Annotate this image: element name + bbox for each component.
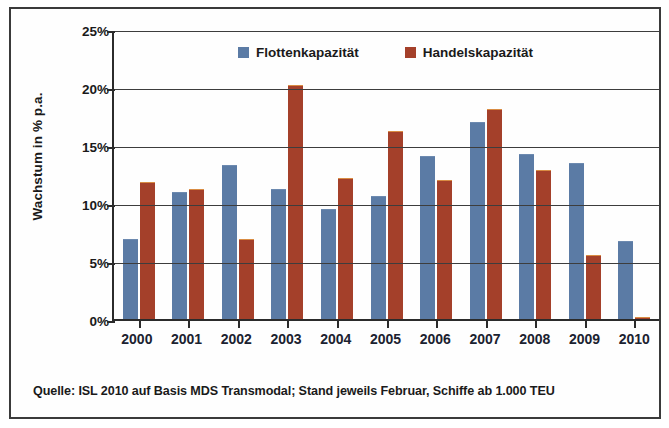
y-axis-tick-label: 10% <box>63 198 109 213</box>
x-axis-tick-mark <box>387 320 389 328</box>
bar-group <box>263 31 313 321</box>
bar-fleet <box>222 165 237 321</box>
x-axis-tick-label: 2002 <box>211 331 261 347</box>
y-axis-tick-label: 25% <box>63 24 109 39</box>
chart-page: Wachstum in % p.a. 25%20%15%10%5%0% 2000… <box>0 0 669 428</box>
chart-legend: FlottenkapazitätHandelskapazität <box>112 45 659 60</box>
chart-area: Wachstum in % p.a. 25%20%15%10%5%0% 2000… <box>11 9 663 369</box>
bar-fleet <box>519 154 534 321</box>
x-axis-tick-label: 2006 <box>410 331 460 347</box>
x-axis-tick-label: 2001 <box>162 331 212 347</box>
bar-fleet <box>470 122 485 321</box>
gridline <box>114 147 659 148</box>
y-axis-tick-mark <box>107 263 115 265</box>
legend-swatch-icon <box>238 47 249 58</box>
x-axis-tick-mark <box>535 320 537 328</box>
legend-item-fleet: Flottenkapazität <box>238 45 359 60</box>
bar-fleet <box>271 189 286 321</box>
legend-item-trade: Handelskapazität <box>405 45 533 60</box>
bar-group <box>213 31 263 321</box>
bar-fleet <box>420 156 435 321</box>
bar-trade <box>536 170 551 321</box>
y-axis-title: Wachstum in % p.a. <box>30 57 45 257</box>
y-axis-tick-mark <box>107 147 115 149</box>
chart-frame: Wachstum in % p.a. 25%20%15%10%5%0% 2000… <box>9 7 661 419</box>
x-axis-tick-label: 2000 <box>112 331 162 347</box>
y-axis-tick-label: 15% <box>63 140 109 155</box>
bar-fleet <box>371 196 386 321</box>
x-axis-tick-label: 2009 <box>560 331 610 347</box>
x-axis-tick-mark <box>486 320 488 328</box>
x-axis-tick-label: 2003 <box>261 331 311 347</box>
y-axis-tick-mark <box>107 205 115 207</box>
x-axis-tick-label: 2004 <box>311 331 361 347</box>
bar-trade <box>338 178 353 321</box>
source-note: Quelle: ISL 2010 auf Basis MDS Transmoda… <box>33 384 643 398</box>
legend-label: Handelskapazität <box>423 45 533 60</box>
legend-swatch-icon <box>405 47 416 58</box>
gridline <box>114 205 659 206</box>
gridline <box>114 89 659 90</box>
bar-group <box>164 31 214 321</box>
y-axis-tick-label: 0% <box>63 314 109 329</box>
bar-fleet <box>569 163 584 321</box>
bar-group <box>510 31 560 321</box>
bar-group <box>312 31 362 321</box>
y-axis-tick-mark <box>107 321 115 323</box>
y-axis-tick-label: 20% <box>63 82 109 97</box>
bar-fleet <box>123 239 138 321</box>
gridline <box>114 263 659 264</box>
bar-trade <box>437 180 452 321</box>
x-axis-tick-mark <box>238 320 240 328</box>
x-axis-tick-label: 2007 <box>460 331 510 347</box>
bar-fleet <box>618 241 633 321</box>
x-axis-tick-labels: 2000200120022003200420052006200720082009… <box>112 331 659 347</box>
bar-groups <box>114 31 659 321</box>
x-axis-tick-label: 2010 <box>609 331 659 347</box>
y-axis-tick-mark <box>107 89 115 91</box>
bar-group <box>411 31 461 321</box>
bar-trade <box>586 255 601 321</box>
y-axis-tick-mark <box>107 31 115 33</box>
x-axis-tick-label: 2005 <box>361 331 411 347</box>
x-axis-tick-mark <box>436 320 438 328</box>
bar-group <box>114 31 164 321</box>
x-axis-tick-label: 2008 <box>510 331 560 347</box>
bar-trade <box>487 109 502 321</box>
bar-group <box>461 31 511 321</box>
legend-label: Flottenkapazität <box>256 45 359 60</box>
x-axis-tick-mark <box>139 320 141 328</box>
y-axis-tick-labels: 25%20%15%10%5%0% <box>63 24 109 324</box>
bar-group <box>362 31 412 321</box>
bar-trade <box>239 239 254 321</box>
plot-area <box>112 31 659 321</box>
x-axis-tick-mark <box>188 320 190 328</box>
bar-fleet <box>321 209 336 321</box>
bar-trade <box>388 131 403 321</box>
x-axis-tick-mark <box>337 320 339 328</box>
bar-trade <box>189 189 204 321</box>
gridline <box>114 31 659 32</box>
y-axis-tick-label: 5% <box>63 256 109 271</box>
bar-fleet <box>172 192 187 321</box>
x-axis-tick-mark <box>585 320 587 328</box>
bar-trade <box>288 85 303 321</box>
bar-trade <box>140 182 155 321</box>
bar-group <box>560 31 610 321</box>
x-axis-tick-mark <box>634 320 636 328</box>
bar-group <box>609 31 659 321</box>
x-axis-line <box>114 319 659 321</box>
x-axis-tick-mark <box>287 320 289 328</box>
